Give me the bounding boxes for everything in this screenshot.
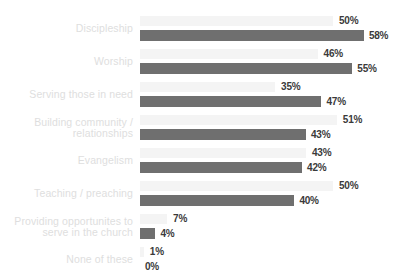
bar-light: [140, 115, 337, 125]
bar-track-dark: 43%: [140, 128, 399, 141]
bar-value-light: 35%: [281, 81, 300, 92]
bar-track-light: 50%: [140, 14, 399, 27]
bar-track-dark: 42%: [140, 161, 399, 174]
bar-value-dark: 47%: [326, 96, 345, 107]
category-label: None of these: [0, 254, 140, 266]
bar-track-light: 7%: [140, 212, 399, 225]
chart-row: None of these1%0%: [0, 245, 399, 275]
bar-dark: [140, 63, 352, 74]
bar-track-light: 51%: [140, 113, 399, 126]
bar-track-dark: 40%: [140, 194, 399, 207]
bar-group: 1%0%: [140, 245, 399, 275]
category-label: Serving those in need: [0, 89, 140, 101]
bar-value-light: 50%: [339, 15, 358, 26]
bar-group: 50%40%: [140, 179, 399, 209]
bar-value-dark: 42%: [307, 162, 326, 173]
bar-track-dark: 55%: [140, 62, 399, 75]
bar-track-light: 43%: [140, 146, 399, 159]
bar-value-light: 50%: [339, 180, 358, 191]
bar-value-dark: 43%: [311, 129, 330, 140]
bar-track-dark: 0%: [140, 260, 399, 273]
chart-row: Discipleship50%58%: [0, 14, 399, 44]
bar-value-light: 51%: [343, 114, 362, 125]
bar-track-light: 50%: [140, 179, 399, 192]
bar-dark: [140, 30, 364, 41]
bar-light: [140, 214, 167, 224]
bar-value-light: 43%: [312, 147, 331, 158]
bar-value-dark: 58%: [369, 30, 388, 41]
bar-light: [140, 181, 333, 191]
bar-track-light: 35%: [140, 80, 399, 93]
category-label: Worship: [0, 56, 140, 68]
category-label: Evangelism: [0, 155, 140, 167]
bar-track-light: 46%: [140, 47, 399, 60]
bar-value-light: 46%: [324, 48, 343, 59]
bar-value-light: 7%: [173, 213, 187, 224]
bar-light: [140, 16, 333, 26]
bar-group: 35%47%: [140, 80, 399, 110]
bar-dark: [140, 162, 302, 173]
category-label: Providing opportunites to serve in the c…: [0, 216, 140, 239]
bar-value-light: 1%: [150, 246, 164, 257]
bar-group: 50%58%: [140, 14, 399, 44]
bar-light: [140, 82, 275, 92]
bar-track-dark: 47%: [140, 95, 399, 108]
bar-value-dark: 55%: [357, 63, 376, 74]
bar-group: 7%4%: [140, 212, 399, 242]
bar-group: 51%43%: [140, 113, 399, 143]
bar-value-dark: 40%: [299, 195, 318, 206]
bar-dark: [140, 96, 321, 107]
chart-row: Serving those in need35%47%: [0, 80, 399, 110]
chart-row: Teaching / preaching50%40%: [0, 179, 399, 209]
category-label: Building community / relationships: [0, 117, 140, 140]
bar-group: 43%42%: [140, 146, 399, 176]
chart-row: Evangelism43%42%: [0, 146, 399, 176]
chart-row: Building community / relationships51%43%: [0, 113, 399, 143]
bar-light: [140, 148, 306, 158]
bar-light: [140, 49, 318, 59]
bar-dark: [140, 228, 155, 239]
bar-value-dark: 4%: [160, 228, 174, 239]
bar-group: 46%55%: [140, 47, 399, 77]
category-label: Discipleship: [0, 23, 140, 35]
chart-row: Worship46%55%: [0, 47, 399, 77]
category-label: Teaching / preaching: [0, 188, 140, 200]
bar-light: [140, 247, 144, 257]
bar-dark: [140, 129, 306, 140]
bar-value-dark: 0%: [145, 261, 159, 272]
bar-track-dark: 4%: [140, 227, 399, 240]
bar-track-dark: 58%: [140, 29, 399, 42]
bar-dark: [140, 195, 294, 206]
chart-row: Providing opportunites to serve in the c…: [0, 212, 399, 242]
bar-track-light: 1%: [140, 245, 399, 258]
bar-chart: Discipleship50%58%Worship46%55%Serving t…: [0, 0, 399, 277]
